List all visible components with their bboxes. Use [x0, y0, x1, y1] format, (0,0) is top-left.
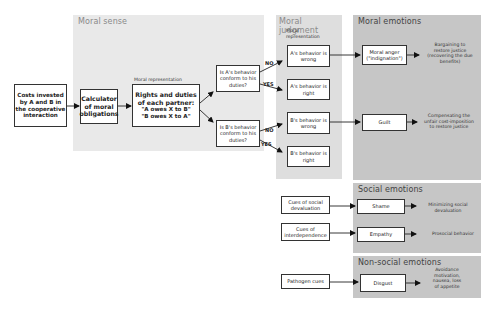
panel-title-non-social-emotions: Non-social emotions	[358, 258, 441, 267]
panel-title-moral-emotions: Moral emotions	[358, 17, 421, 26]
anger-outcome: Bargaining to restore justice (recoverin…	[419, 42, 481, 65]
moral-representation-label: Moral representation	[134, 77, 182, 83]
empathy-box: Empathy	[357, 227, 405, 242]
shame-outcome: Minimizing social devaluation	[418, 202, 478, 213]
branch-b-no: NO	[265, 127, 273, 133]
question-b-box: Is B's behavior conform to his duties?	[216, 120, 260, 147]
empathy-outcome: Prosocial behavior	[423, 231, 483, 237]
guilt-outcome: Compensating the unfair cost-imposition …	[416, 113, 482, 130]
moral-anger-box: Moral anger ("indignation")	[362, 45, 407, 65]
panel-social-emotions: Social emotions	[353, 183, 481, 253]
panel-title-social-emotions: Social emotions	[358, 185, 423, 194]
branch-b-yes: YES	[261, 141, 272, 147]
b-right-box: B's behavior is right	[287, 146, 330, 167]
disgust-box: Disgust	[360, 274, 406, 292]
branch-a-no: NO	[265, 60, 273, 66]
calculator-box: Calculator of moral obligations	[80, 89, 118, 124]
question-a-box: Is A's behavior conform to his duties?	[216, 65, 260, 92]
guilt-box: Guilt	[362, 114, 407, 131]
shame-box: Shame	[357, 199, 405, 214]
judgment-representation-label: Moral representation	[286, 28, 320, 39]
panel-title-moral-sense: Moral sense	[78, 17, 127, 26]
rights-duties-box: Rights and duties of each partner: "A ow…	[132, 84, 200, 127]
rights-line-2: "B owes X to A"	[141, 113, 190, 120]
cue-pathogen-box: Pathogen cues	[281, 274, 330, 289]
a-wrong-box: A's behavior is wrong	[287, 45, 330, 67]
costs-invested-box: Costs invested by A and B in the coopera…	[14, 84, 67, 127]
rights-title: Rights and duties of each partner:	[135, 91, 196, 106]
disgust-outcome: Avoidance motivation, nausea, loss of ap…	[422, 267, 472, 290]
cue-social-devaluation-box: Cues of social devaluation	[281, 196, 330, 214]
rights-line-1: "A owes X to B"	[141, 106, 190, 113]
branch-a-yes: YES	[263, 81, 274, 87]
panel-moral-emotions: Moral emotions	[353, 15, 481, 180]
b-wrong-box: B's behavior is wrong	[287, 112, 330, 134]
cue-interdependence-box: Cues of interdependence	[281, 223, 330, 241]
a-right-box: A's behavior is right	[287, 79, 330, 100]
